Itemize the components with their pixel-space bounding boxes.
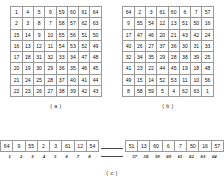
strip-index-label: 60 <box>163 154 174 159</box>
strip-index-label: 64 <box>209 154 220 159</box>
matrix-cell: 60 <box>168 7 179 18</box>
matrix-cell: 10 <box>45 29 56 40</box>
matrix-cell: 55 <box>56 29 67 40</box>
matrix-cell: 35 <box>145 52 156 63</box>
matrix-cell: 61 <box>157 7 168 18</box>
matrix-cell: 58 <box>134 86 145 97</box>
matrix-cell: 64 <box>90 7 101 18</box>
strip-cell: 51 <box>125 141 137 152</box>
matrix-cell: 8 <box>123 86 134 97</box>
matrix-cell: 39 <box>67 86 78 97</box>
matrix-cell: 50 <box>90 29 101 40</box>
matrix-cell: 62 <box>79 18 90 29</box>
strip-cell: 50 <box>187 141 199 152</box>
matrix-cell: 6 <box>45 7 56 18</box>
strip-cell: 13 <box>138 141 150 152</box>
matrix-cell: 3 <box>145 7 156 18</box>
matrix-cell: 4 <box>22 7 33 18</box>
matrix-cell: 31 <box>191 40 202 51</box>
matrix-cell: 3 <box>22 18 33 29</box>
separator-line-indices <box>101 156 123 157</box>
matrix-cell: 38 <box>179 52 190 63</box>
strip-cell: 3 <box>50 141 62 152</box>
matrix-cell: 46 <box>79 63 90 74</box>
matrix-cell: 43 <box>179 29 190 40</box>
strip-cell: 12 <box>74 141 86 152</box>
matrix-cell: 24 <box>22 74 33 85</box>
matrix-cell: 38 <box>56 86 67 97</box>
matrix-cell: 11 <box>179 74 190 85</box>
matrix-cell: 33 <box>202 40 213 51</box>
matrix-cell: 47 <box>134 29 145 40</box>
matrix-cell: 20 <box>11 63 22 74</box>
matrix-cell: 1 <box>202 86 213 97</box>
matrix-cell: 59 <box>56 7 67 18</box>
matrix-cell: 22 <box>145 63 156 74</box>
matrix-cell: 25 <box>33 74 44 85</box>
matrix-cell: 20 <box>157 29 168 40</box>
matrix-cell: 36 <box>56 63 67 74</box>
matrix-cell: 19 <box>179 63 190 74</box>
matrix-cell: 53 <box>67 40 78 51</box>
matrix-cell: 50 <box>191 18 202 29</box>
strip-index-label: 62 <box>186 154 197 159</box>
grid-a-body: 1456596061642387585762631514910555651501… <box>11 7 101 97</box>
matrix-cell: 16 <box>202 18 213 29</box>
matrix-cell: 2 <box>11 18 22 29</box>
matrix-cell: 48 <box>202 63 213 74</box>
matrix-cell: 25 <box>202 52 213 63</box>
matrix-cell: 30 <box>33 63 44 74</box>
matrix-cell: 42 <box>191 29 202 40</box>
matrix-cell: 28 <box>45 74 56 85</box>
matrix-row: 4915145253111056 <box>123 74 213 85</box>
matrix-cell: 52 <box>157 74 168 85</box>
matrix-cell: 39 <box>191 52 202 63</box>
strip-index-label: 2 <box>15 154 26 159</box>
strip-index-label: 61 <box>174 154 185 159</box>
matrix-cell: 4 <box>168 86 179 97</box>
matrix-cell: 44 <box>90 74 101 85</box>
matrix-row: 3234352928383925 <box>123 52 213 63</box>
matrix-cell: 21 <box>11 74 22 85</box>
matrix-row: 145659606164 <box>11 7 101 18</box>
matrix-cell: 16 <box>11 40 22 51</box>
matrix-cell: 57 <box>202 7 213 18</box>
matrix-row: 4123224445191848 <box>123 63 213 74</box>
matrix-cell: 9 <box>123 18 134 29</box>
strip-index-label: 5 <box>50 154 61 159</box>
grids-row: 1456596061642387585762631514910555651501… <box>0 6 224 109</box>
matrix-cell: 62 <box>179 86 190 97</box>
matrix-cell: 52 <box>79 40 90 51</box>
strip-cell: 54 <box>86 141 98 152</box>
matrix-cell: 32 <box>123 52 134 63</box>
matrix-row: 2019302936354645 <box>11 63 101 74</box>
grid-b-caption: ( b ) <box>162 103 174 109</box>
sequence-area: 6495523611254 12345678 51136067501657 57… <box>0 140 224 176</box>
matrix-cell: 63 <box>90 18 101 29</box>
matrix-row: 4026273736303133 <box>123 40 213 51</box>
matrix-cell: 34 <box>134 52 145 63</box>
matrix-cell: 63 <box>191 86 202 97</box>
matrix-cell: 54 <box>56 40 67 51</box>
matrix-cell: 43 <box>90 86 101 97</box>
strip-row: 51136067501657 <box>125 141 223 152</box>
matrix-cell: 45 <box>168 63 179 74</box>
matrix-cell: 14 <box>22 29 33 40</box>
matrix-cell: 30 <box>179 40 190 51</box>
segment-right-indices: 5758596061626364 <box>129 154 220 159</box>
matrix-cell: 45 <box>90 63 101 74</box>
segment-right-values-body: 51136067501657 <box>125 141 223 152</box>
matrix-cell: 40 <box>123 40 134 51</box>
strip-cell: 60 <box>150 141 162 152</box>
sequence-segment-left: 6495523611254 12345678 <box>0 140 99 159</box>
strip-index-label: 58 <box>140 154 151 159</box>
matrix-cell: 22 <box>11 86 22 97</box>
matrix-row: 2124252837404144 <box>11 74 101 85</box>
strip-index-label: 6 <box>61 154 72 159</box>
matrix-cell: 40 <box>67 74 78 85</box>
strip-index-label: 8 <box>84 154 95 159</box>
grid-b-block: 6423616067579555412135150161747462021434… <box>122 6 213 109</box>
matrix-cell: 26 <box>134 40 145 51</box>
matrix-cell: 18 <box>22 52 33 63</box>
grid-b-matrix: 6423616067579555412135150161747462021434… <box>122 6 213 97</box>
